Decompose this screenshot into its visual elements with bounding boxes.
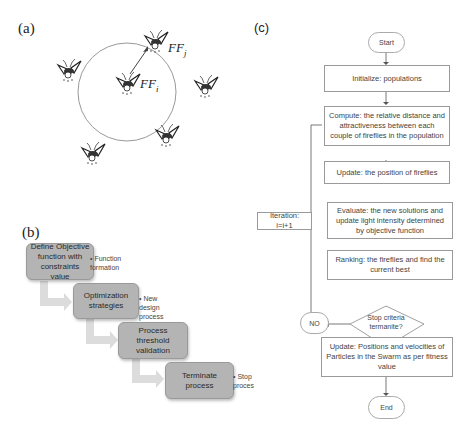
start-node: Start [368, 32, 405, 53]
decision-label: Stop criteria termanite? [362, 313, 410, 331]
evaluate-box: Evaluate: the new solutions and update l… [327, 202, 453, 239]
compute-box: Compute: the relative distance and attra… [324, 106, 450, 146]
end-node: End [368, 396, 405, 419]
no-node: NO [300, 312, 329, 334]
ranking-box: Ranking: the fireflies and find the curr… [327, 250, 453, 280]
initialize-box: Initialize: populations [324, 65, 450, 92]
iteration-box: Iteration: i=i+1 [257, 212, 312, 230]
update-particles-box: Update: Positions and velocities of Part… [321, 337, 453, 377]
update-position-box: Update: the position of fireflies [324, 161, 450, 184]
